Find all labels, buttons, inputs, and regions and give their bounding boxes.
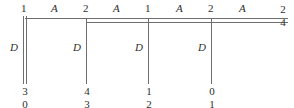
vertical-member-1-label: D bbox=[10, 42, 18, 53]
span-label-4: A bbox=[239, 3, 246, 14]
bottom-node-3-lower: 2 bbox=[143, 98, 155, 108]
bottom-node-4-upper: 0 bbox=[206, 85, 218, 98]
bottom-node-2-upper: 4 bbox=[81, 85, 93, 98]
bottom-node-labels-4: 0 1 bbox=[206, 85, 218, 108]
vertical-member-2-label: D bbox=[73, 42, 81, 53]
bottom-node-2-lower: 3 bbox=[81, 98, 93, 108]
span-label-1: A bbox=[51, 3, 58, 14]
right-terminal-labels: 2 4 bbox=[277, 3, 289, 28]
top-node-label-1: 1 bbox=[21, 3, 27, 14]
bottom-node-1-lower: 0 bbox=[19, 98, 31, 108]
span-label-2: A bbox=[113, 3, 120, 14]
bottom-node-1-upper: 3 bbox=[19, 85, 31, 98]
bottom-node-labels-1: 3 0 bbox=[19, 85, 31, 108]
vertical-member-3-label: D bbox=[135, 42, 143, 53]
vertical-member-4-label: D bbox=[198, 42, 206, 53]
right-terminal-lower-label: 4 bbox=[277, 16, 289, 29]
top-node-label-4: 2 bbox=[208, 3, 214, 14]
bottom-node-4-lower: 1 bbox=[206, 98, 218, 108]
bottom-node-labels-2: 4 3 bbox=[81, 85, 93, 108]
span-label-3: A bbox=[176, 3, 183, 14]
bottom-node-3-upper: 1 bbox=[143, 85, 155, 98]
top-node-label-2: 2 bbox=[83, 3, 89, 14]
bottom-node-labels-3: 1 2 bbox=[143, 85, 155, 108]
top-node-label-3: 1 bbox=[145, 3, 151, 14]
right-terminal-upper-label: 2 bbox=[277, 3, 289, 16]
diagram-canvas: 1 2 1 2 A A A A 2 4 D D D D 3 0 4 3 1 2 … bbox=[0, 0, 294, 108]
